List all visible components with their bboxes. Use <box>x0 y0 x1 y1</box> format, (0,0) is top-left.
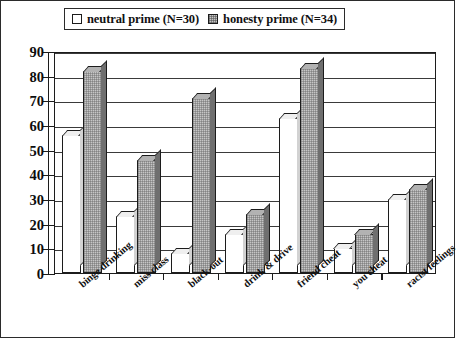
legend-entry-honesty-prime: honesty prime (N=34) <box>208 12 337 27</box>
y-tick-label: 10 <box>30 241 45 258</box>
legend-label-honesty-prime: honesty prime (N=34) <box>223 12 337 27</box>
chart-legend: neutral prime (N=30) honesty prime (N=34… <box>64 8 345 30</box>
bar <box>192 98 211 273</box>
bar-group <box>326 53 380 273</box>
bar-side-face <box>210 87 216 266</box>
bar-group <box>109 53 163 273</box>
bar <box>62 135 81 273</box>
bar <box>388 199 407 273</box>
bar-group <box>272 53 326 273</box>
bar-group <box>381 53 435 273</box>
y-tick-label: 90 <box>30 44 45 61</box>
legend-entry-neutral-prime: neutral prime (N=30) <box>72 12 199 27</box>
bar-side-face <box>155 149 161 266</box>
y-tick-label: 50 <box>30 142 45 159</box>
bar <box>83 71 102 273</box>
gray-hatched-square-icon <box>208 14 218 24</box>
y-tick-label: 60 <box>30 118 45 135</box>
bar <box>409 189 428 273</box>
bar-side-face <box>427 178 433 266</box>
x-axis-labels: binge drinkingmiss classblack-outdrink &… <box>1 277 456 338</box>
y-tick-label: 80 <box>30 68 45 85</box>
legend-label-neutral-prime: neutral prime (N=30) <box>87 12 199 27</box>
bar-side-face <box>101 60 107 266</box>
bar-group <box>55 53 109 273</box>
plot-wrapper: 0102030405060708090 <box>48 52 436 274</box>
y-tick-label: 30 <box>30 192 45 209</box>
bar-side-face <box>318 57 324 266</box>
y-tick-label: 70 <box>30 93 45 110</box>
bar <box>300 68 319 273</box>
bar-groups <box>55 53 435 273</box>
bar <box>137 160 156 273</box>
bar-group <box>218 53 272 273</box>
white-square-icon <box>72 14 82 24</box>
bar <box>171 253 190 273</box>
plot-area <box>54 52 436 274</box>
bar-group <box>164 53 218 273</box>
bar <box>225 234 244 273</box>
y-tick-label: 20 <box>30 216 45 233</box>
y-tick-label: 40 <box>30 167 45 184</box>
